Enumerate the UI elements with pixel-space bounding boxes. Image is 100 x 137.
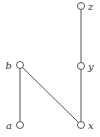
node-label-b: b xyxy=(6,60,12,71)
node-z xyxy=(78,3,85,10)
node-a xyxy=(17,122,24,129)
edge-x-b xyxy=(20,65,81,125)
node-label-y: y xyxy=(87,61,94,72)
node-x xyxy=(78,122,85,129)
node-label-z: z xyxy=(87,1,94,12)
node-b xyxy=(17,62,24,69)
hasse-diagram: zybax xyxy=(0,0,100,137)
node-label-a: a xyxy=(6,120,12,131)
node-label-x: x xyxy=(88,120,94,131)
node-y xyxy=(78,63,85,70)
